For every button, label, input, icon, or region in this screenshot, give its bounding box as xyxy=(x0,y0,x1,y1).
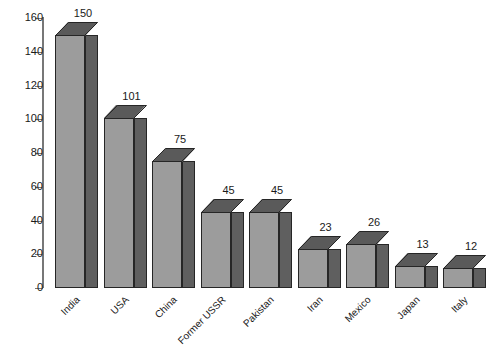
y-axis-tick-label: 120 xyxy=(13,80,43,91)
bar-side-face xyxy=(279,212,292,288)
bar-front-face xyxy=(104,118,134,288)
y-axis-tick: 20 xyxy=(0,254,43,255)
bar-front-face xyxy=(152,161,182,288)
bar-front-face xyxy=(55,35,85,288)
bar-value-label: 75 xyxy=(159,133,201,145)
bar-side-face xyxy=(182,161,195,288)
bar-side-face xyxy=(376,244,389,288)
bar-value-label: 12 xyxy=(450,240,492,252)
bar-value-label: 45 xyxy=(208,184,250,196)
y-axis-tick-label: 40 xyxy=(13,215,43,226)
bar-front-face xyxy=(201,212,231,288)
y-axis-tick: 160 xyxy=(0,18,43,19)
bar-chart: 020406080100120140160 150101754545232613… xyxy=(0,0,494,360)
bar-front-face xyxy=(346,244,376,288)
y-axis-tick: 120 xyxy=(0,86,43,87)
bar-value-label: 13 xyxy=(402,238,444,250)
bar-value-label: 23 xyxy=(305,221,347,233)
y-axis-tick-label: 160 xyxy=(13,12,43,23)
bar-front-face xyxy=(298,249,328,288)
bar xyxy=(55,22,98,288)
y-axis-tick: 40 xyxy=(0,221,43,222)
y-axis-tick-label: 20 xyxy=(13,248,43,259)
bar xyxy=(395,253,438,288)
y-axis-tick-label: 60 xyxy=(13,181,43,192)
y-axis-tick-label: 140 xyxy=(13,46,43,57)
bar xyxy=(346,231,389,288)
bar xyxy=(298,236,341,288)
bar-front-face xyxy=(395,266,425,288)
y-axis-tick-label: 0 xyxy=(13,282,43,293)
bar-front-face xyxy=(249,212,279,288)
y-axis-tick: 100 xyxy=(0,119,43,120)
y-axis-tick: 60 xyxy=(0,187,43,188)
y-axis-tick-label: 80 xyxy=(13,147,43,158)
bar xyxy=(104,105,147,288)
bar-side-face xyxy=(328,249,341,288)
bar xyxy=(249,199,292,288)
bar xyxy=(201,199,244,288)
bar-value-label: 45 xyxy=(256,184,298,196)
y-axis-tick: 0 xyxy=(0,288,43,289)
bar-front-face xyxy=(443,268,473,288)
bar-side-face xyxy=(425,266,438,288)
bar-side-face xyxy=(134,118,147,288)
bar xyxy=(443,255,486,288)
bar-value-label: 26 xyxy=(353,216,395,228)
y-axis-tick: 140 xyxy=(0,52,43,53)
bar-side-face xyxy=(473,268,486,288)
bar-side-face xyxy=(231,212,244,288)
bar-value-label: 150 xyxy=(62,7,104,19)
bar-side-face xyxy=(85,35,98,288)
y-axis-tick-label: 100 xyxy=(13,113,43,124)
bar-value-label: 101 xyxy=(111,90,153,102)
bar xyxy=(152,148,195,288)
y-axis-tick: 80 xyxy=(0,153,43,154)
